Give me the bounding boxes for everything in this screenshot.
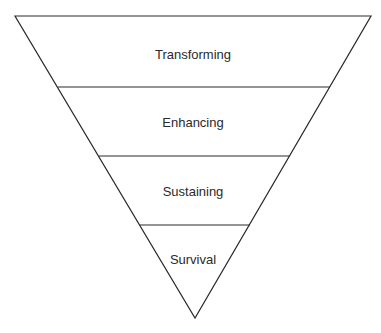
level-sustaining-label: Sustaining — [163, 184, 224, 199]
level-enhancing-label: Enhancing — [162, 115, 223, 130]
level-transforming-label: Transforming — [155, 47, 231, 62]
level-survival-label: Survival — [170, 252, 216, 267]
